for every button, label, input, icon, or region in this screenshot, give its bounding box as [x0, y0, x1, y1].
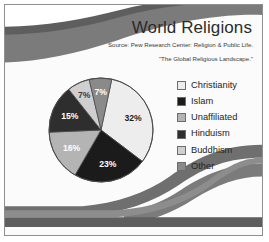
- pie-slice-label: 7%: [78, 90, 91, 100]
- legend-item-label: Unaffiliated: [191, 113, 237, 122]
- source-line-primary: Source: Pew Research Center: Religion & …: [108, 41, 253, 48]
- pie-slice-label: 7%: [94, 87, 107, 97]
- legend-item[interactable]: Christianity: [177, 77, 263, 93]
- legend-item[interactable]: Unaffiliated: [177, 110, 263, 126]
- slide-canvas: World Religions Source: Pew Research Cen…: [0, 0, 269, 242]
- page-title: World Religions: [132, 18, 252, 38]
- legend-item[interactable]: Buddhism: [177, 142, 263, 158]
- legend-swatch: [177, 81, 186, 90]
- legend-item-label: Hinduism: [191, 129, 230, 138]
- pie-slice-label: 32%: [125, 113, 143, 123]
- legend-swatch: [177, 97, 186, 106]
- legend-item-label: Islam: [191, 97, 213, 106]
- pie-slice-label: 23%: [99, 159, 117, 169]
- pie-chart-svg: 32%23%16%15%7%7%: [46, 75, 156, 185]
- legend-item-label: Other: [191, 162, 214, 171]
- legend-swatch: [177, 146, 186, 155]
- pie-slice-label: 15%: [61, 111, 79, 121]
- legend-item[interactable]: Hinduism: [177, 126, 263, 142]
- slide-frame: World Religions Source: Pew Research Cen…: [4, 4, 263, 236]
- legend-item[interactable]: Other: [177, 158, 263, 174]
- chart-legend: ChristianityIslamUnaffiliatedHinduismBud…: [177, 77, 263, 175]
- legend-item[interactable]: Islam: [177, 93, 263, 109]
- wave-bottom-bar: [5, 217, 262, 227]
- legend-swatch: [177, 113, 186, 122]
- legend-item-label: Buddhism: [191, 146, 232, 155]
- pie-chart: 32%23%16%15%7%7%: [46, 75, 156, 185]
- legend-item-label: Christianity: [191, 81, 237, 90]
- legend-swatch: [177, 162, 186, 171]
- source-line-secondary: "The Global Religious Landscape.": [159, 55, 253, 62]
- legend-swatch: [177, 130, 186, 139]
- pie-slice-label: 16%: [63, 143, 81, 153]
